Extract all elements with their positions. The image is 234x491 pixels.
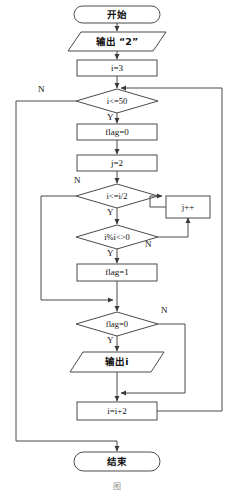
figure-caption: 图 xyxy=(0,480,234,491)
branch-label-condmod-yes: Y xyxy=(107,249,114,258)
branch-label-condmod-no: N xyxy=(145,240,152,249)
node-label-j2: j=2 xyxy=(77,155,157,171)
node-label-ii2: i=i+2 xyxy=(77,402,157,420)
branch-label-condflag-yes: Y xyxy=(107,336,114,345)
branch-label-condflag-no: N xyxy=(161,306,168,315)
branch-label-cond50-yes: Y xyxy=(107,113,114,122)
node-label-flag1: flag=1 xyxy=(77,264,157,281)
node-label-jplus: j++ xyxy=(166,196,210,218)
node-label-cond50: i<=50 xyxy=(76,89,158,113)
node-label-start: 开始 xyxy=(74,6,160,23)
node-label-condflag: flag=0 xyxy=(76,312,158,336)
branch-label-cond50-no: N xyxy=(38,85,45,94)
node-label-end: 结束 xyxy=(74,452,160,471)
branch-label-condhalf-no: N xyxy=(74,176,81,185)
node-label-printi: 输出i xyxy=(70,352,164,372)
node-label-i3: i=3 xyxy=(77,60,157,76)
node-label-flag0: flag=0 xyxy=(77,124,157,140)
branch-label-condhalf-yes: Y xyxy=(107,208,114,217)
node-label-print2: 输出 “2” xyxy=(68,32,166,51)
node-label-condhalf: i<=i/2 xyxy=(76,184,158,208)
